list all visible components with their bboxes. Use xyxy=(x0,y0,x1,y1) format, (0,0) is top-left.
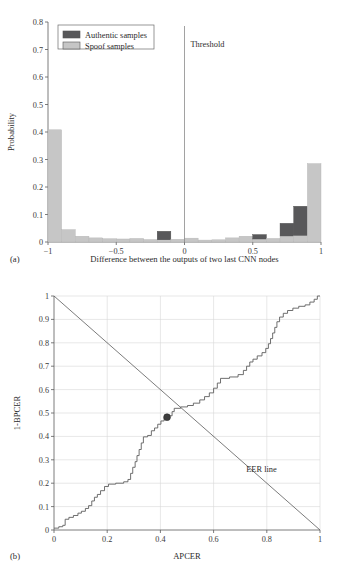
panel-b-tag: (b) xyxy=(10,551,20,561)
roc-y-tick-label: 0.2 xyxy=(39,479,49,488)
hist-bar-spoof xyxy=(103,239,117,242)
panel-a-histogram: 00.10.20.30.40.50.60.70.8−1−0.500.51Thre… xyxy=(6,18,323,561)
roc-y-tick-label: 0.9 xyxy=(39,315,49,324)
hist-y-axis-title: Probability xyxy=(6,112,16,151)
hist-bar-spoof xyxy=(144,240,158,242)
hist-bar-spoof xyxy=(130,238,144,242)
hist-bar-authentic xyxy=(280,223,294,236)
roc-y-tick-label: 0 xyxy=(45,526,49,535)
roc-y-axis-title: 1-BPCER xyxy=(12,396,22,431)
eer-point-marker xyxy=(164,414,171,421)
roc-y-tick-label: 0.7 xyxy=(39,362,49,371)
figure-svg: 00.10.20.30.40.50.60.70.8−1−0.500.51Thre… xyxy=(0,0,340,566)
hist-y-tick-label: 0.1 xyxy=(33,211,43,220)
hist-bar-authentic xyxy=(253,235,267,239)
hist-bar-spoof xyxy=(62,230,76,242)
eer-line-label: EER line xyxy=(246,465,277,474)
roc-x-axis-title: APCER xyxy=(173,551,201,561)
figure-container: 00.10.20.30.40.50.60.70.8−1−0.500.51Thre… xyxy=(0,0,340,566)
hist-bar-spoof xyxy=(266,238,280,242)
hist-y-tick-label: 0.5 xyxy=(33,101,43,110)
roc-y-tick-label: 0.4 xyxy=(39,432,49,441)
panel-b-roc: 00.10.20.30.40.50.60.70.80.9100.20.40.60… xyxy=(10,292,322,561)
hist-bar-authentic xyxy=(294,206,308,235)
hist-y-tick-label: 0.4 xyxy=(33,128,43,137)
legend-swatch xyxy=(63,31,80,38)
hist-y-tick-label: 0.7 xyxy=(33,46,43,55)
hist-bar-spoof xyxy=(280,236,294,242)
hist-bar-spoof xyxy=(294,235,308,242)
hist-bar-spoof xyxy=(157,240,171,242)
hist-bar-spoof xyxy=(307,164,321,242)
legend-label: Authentic samples xyxy=(85,31,147,40)
hist-bar-spoof xyxy=(225,238,239,242)
roc-x-tick-label: 0.6 xyxy=(208,535,218,544)
hist-x-tick-label: −1 xyxy=(44,247,53,256)
hist-y-tick-label: 0 xyxy=(39,238,43,247)
hist-bar-spoof xyxy=(239,236,253,242)
roc-x-tick-label: 1 xyxy=(318,535,322,544)
roc-y-tick-label: 0.8 xyxy=(39,339,49,348)
roc-y-tick-label: 0.5 xyxy=(39,409,49,418)
hist-y-tick-label: 0.2 xyxy=(33,183,43,192)
hist-bar-spoof xyxy=(198,240,212,242)
hist-bar-spoof xyxy=(171,239,185,242)
hist-x-tick-label: 1 xyxy=(319,247,323,256)
hist-bar-spoof xyxy=(253,239,267,242)
roc-x-tick-label: 0.8 xyxy=(262,535,272,544)
legend-swatch xyxy=(63,42,80,49)
roc-y-tick-label: 0.6 xyxy=(39,386,49,395)
hist-bar-authentic xyxy=(157,231,171,240)
roc-y-tick-label: 0.3 xyxy=(39,456,49,465)
threshold-label: Threshold xyxy=(191,40,226,49)
roc-y-tick-label: 0.1 xyxy=(39,503,49,512)
hist-y-tick-label: 0.8 xyxy=(33,18,43,27)
hist-x-axis-title: Difference between the outputs of two la… xyxy=(90,254,279,264)
hist-y-tick-label: 0.3 xyxy=(33,156,43,165)
hist-bar-spoof xyxy=(48,130,62,242)
hist-bar-spoof xyxy=(185,238,199,242)
hist-bar-spoof xyxy=(116,239,130,242)
hist-bar-spoof xyxy=(75,236,89,242)
hist-bar-spoof xyxy=(212,240,226,242)
roc-x-tick-label: 0.4 xyxy=(155,535,165,544)
roc-x-tick-label: 0.2 xyxy=(102,535,112,544)
panel-a-tag: (a) xyxy=(10,254,20,264)
hist-y-tick-label: 0.6 xyxy=(33,73,43,82)
roc-x-tick-label: 0 xyxy=(52,535,56,544)
roc-y-tick-label: 1 xyxy=(45,292,49,301)
hist-bar-spoof xyxy=(89,238,103,242)
legend-label: Spoof samples xyxy=(85,42,134,51)
